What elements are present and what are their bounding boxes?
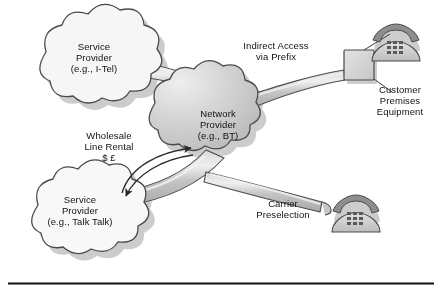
sp-talktalk-line-1: Service <box>28 194 132 205</box>
wlr-line-1: Wholesale <box>62 130 156 141</box>
diagram-canvas: Service Provider (e.g., I-Tel) Network P… <box>0 0 442 292</box>
wlr-line-3: $ £ <box>62 152 156 163</box>
sp-itel-line-1: Service <box>46 41 142 52</box>
sp-talktalk-line-3: (e.g., Talk Talk) <box>28 216 132 227</box>
cloud-label-sp-itel: Service Provider (e.g., I-Tel) <box>46 41 142 74</box>
carrier-preselection-line-1: Carrier <box>240 198 326 209</box>
wlr-line-2: Line Rental <box>62 141 156 152</box>
network-provider-line-3: (e.g., BT) <box>170 130 266 141</box>
sp-talktalk-line-2: Provider <box>28 205 132 216</box>
indirect-access-line-1: Indirect Access <box>228 40 324 51</box>
cloud-label-network-provider: Network Provider (e.g., BT) <box>170 108 266 141</box>
indirect-access-line-2: via Prefix <box>228 51 324 62</box>
network-provider-line-1: Network <box>170 108 266 119</box>
cpe-line-3: Equipment <box>358 106 442 117</box>
label-indirect-access: Indirect Access via Prefix <box>228 40 324 62</box>
cpe-line-1: Customer <box>358 84 442 95</box>
label-carrier-preselection: Carrier Preselection <box>240 198 326 220</box>
sp-itel-line-3: (e.g., I-Tel) <box>46 63 142 74</box>
label-wholesale-line-rental: Wholesale Line Rental $ £ <box>62 130 156 163</box>
cloud-label-sp-talktalk: Service Provider (e.g., Talk Talk) <box>28 194 132 227</box>
network-provider-line-2: Provider <box>170 119 266 130</box>
cpe-line-2: Premises <box>358 95 442 106</box>
label-customer-premises-equipment: Customer Premises Equipment <box>358 84 442 117</box>
carrier-preselection-line-2: Preselection <box>240 209 326 220</box>
sp-itel-line-2: Provider <box>46 52 142 63</box>
